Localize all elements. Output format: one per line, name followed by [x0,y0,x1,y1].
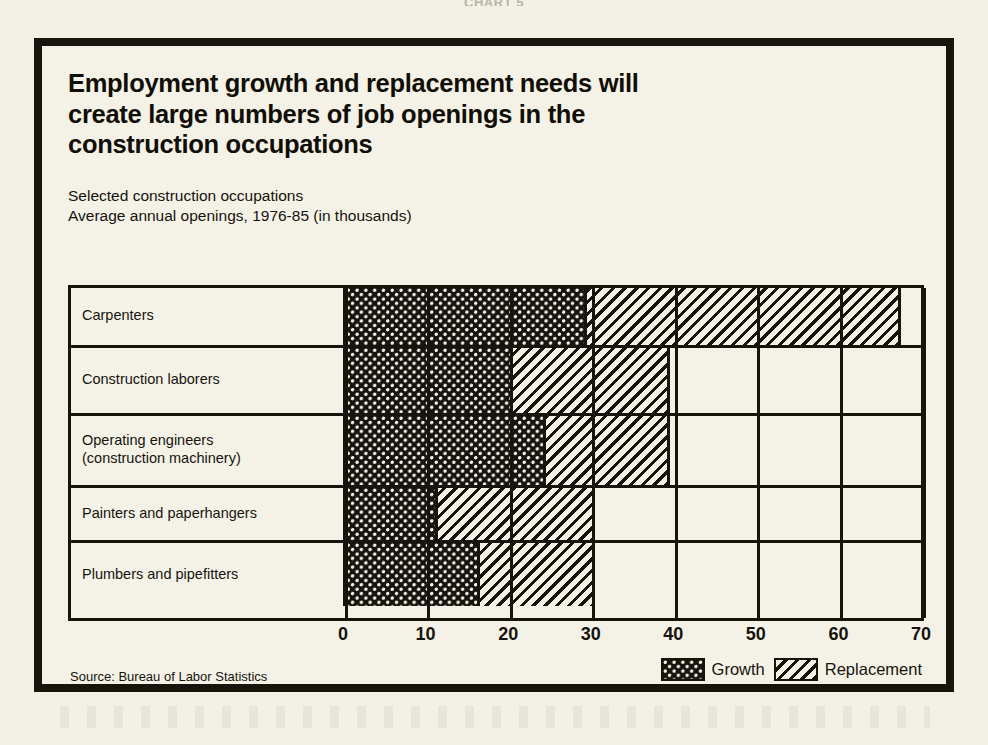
chart-legend: Growth Replacement [661,658,922,681]
chart-subtitle-line-2: Average annual openings, 1976-85 (in tho… [68,206,922,227]
row-label: Operating engineers (construction machin… [82,433,241,468]
gridline [510,288,513,618]
cropped-page-header: CHART 5 [0,0,988,6]
x-axis-tick-label: 40 [663,624,683,645]
chart-subtitle: Selected construction occupations Averag… [68,186,922,227]
bar-segment-divider [584,288,587,345]
bar-segment-divider [435,488,438,541]
x-axis-tick-label: 50 [746,624,766,645]
gridline [840,288,843,618]
row-label: Construction laborers [82,371,220,389]
gridline [345,288,348,618]
page-title: Employment growth and replacement needs … [68,68,708,160]
bar-segment-divider [477,543,480,606]
gridline [757,288,760,618]
bar-segment-replacement [511,348,668,413]
bar-segment-replacement [478,543,594,606]
row-label: Carpenters [82,307,154,325]
chart-row: Plumbers and pipefitters [71,543,921,606]
bar-segment-growth [346,543,478,606]
chart-subtitle-line-1: Selected construction occupations [68,186,922,207]
bar-segment-divider [543,416,546,485]
x-axis-tick-label: 70 [911,624,931,645]
bar-end-cap [667,416,670,485]
legend-label-replacement: Replacement [825,660,922,679]
x-axis-tick-label: 60 [828,624,848,645]
plot-area: CarpentersConstruction laborersOperating… [68,285,924,621]
growth-swatch-icon [661,658,705,681]
plot-grid: CarpentersConstruction laborersOperating… [68,285,924,621]
chart-figure-inner: Employment growth and replacement needs … [42,46,946,684]
source-note: Source: Bureau of Labor Statistics [70,669,267,684]
chart-row: Construction laborers [71,348,921,416]
row-label: Painters and paperhangers [82,505,257,523]
bar-segment-replacement [544,416,668,485]
chart-row: Carpenters [71,288,921,348]
gridline [675,288,678,618]
x-axis: 010203040506070 [68,624,924,658]
legend-item-replacement: Replacement [774,658,922,681]
bar-end-cap [898,288,901,345]
bar-segment-replacement [585,288,899,345]
x-axis-tick-label: 30 [581,624,601,645]
chart-row: Painters and paperhangers [71,488,921,544]
bar-end-cap [667,348,670,413]
chart-row: Operating engineers (construction machin… [71,416,921,488]
gridline [592,288,595,618]
legend-label-growth: Growth [712,660,765,679]
paper-texture [60,706,930,728]
replacement-swatch-icon [774,658,818,681]
bar-segment-replacement [437,488,594,541]
x-axis-tick-label: 0 [338,624,348,645]
gridline [427,288,430,618]
row-label: Plumbers and pipefitters [82,566,238,584]
x-axis-tick-label: 20 [498,624,518,645]
gridline [923,288,926,618]
bar-segment-growth [346,288,585,345]
chart-figure-frame: Employment growth and replacement needs … [34,38,954,692]
legend-item-growth: Growth [661,658,765,681]
x-axis-tick-label: 10 [416,624,436,645]
bar-segment-growth [346,488,437,541]
bar-segment-growth [346,416,544,485]
